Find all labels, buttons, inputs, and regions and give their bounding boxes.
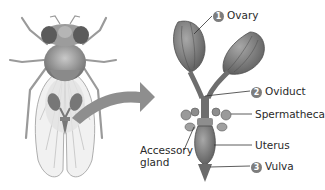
label-vulva: 3Vulva (251, 160, 294, 173)
label-oviduct: 2Oviduct (251, 85, 306, 98)
label-ovary: 1Ovary (213, 9, 258, 22)
fruit-fly-illustration (10, 16, 116, 177)
number-badge: 2 (251, 87, 262, 98)
label-spermatheca: Spermatheca (255, 108, 325, 120)
label-uterus: Uterus (255, 139, 290, 151)
label-accessory-gland: Accessory gland (140, 144, 193, 168)
number-badge: 3 (251, 162, 262, 173)
number-badge: 1 (213, 11, 224, 22)
